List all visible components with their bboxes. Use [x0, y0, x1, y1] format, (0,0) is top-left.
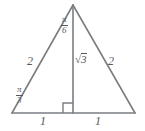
apex-angle-label: π 6 — [61, 15, 68, 36]
base-left-angle-fraction: π 3 — [16, 85, 23, 106]
geometry-figure: π 6 π 3 √3 2 2 1 1 — [0, 0, 145, 131]
altitude-length-label: √3 — [75, 50, 87, 66]
base-left-angle-numerator: π — [16, 85, 23, 94]
triangle-drawing — [0, 0, 145, 131]
base-left-angle-denominator: 3 — [16, 96, 23, 105]
left-side-length-label: 2 — [27, 55, 33, 67]
square-root-expression: √3 — [75, 53, 87, 65]
radical-argument: 3 — [81, 53, 88, 65]
right-angle-marker — [63, 103, 73, 113]
base-right-segment-label: 1 — [95, 115, 101, 127]
right-side-length-label: 2 — [108, 55, 114, 67]
apex-angle-denominator: 6 — [61, 26, 68, 35]
apex-angle-numerator: π — [61, 15, 68, 24]
base-left-segment-label: 1 — [40, 115, 46, 127]
apex-angle-fraction: π 6 — [61, 15, 68, 36]
base-left-angle-label: π 3 — [16, 85, 23, 106]
